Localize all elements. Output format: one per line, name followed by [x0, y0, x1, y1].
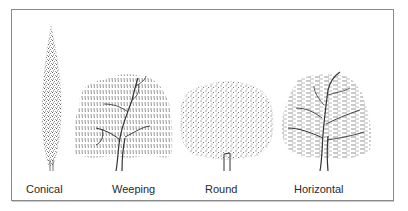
horizontal-tree-drawing	[282, 72, 371, 171]
tree-shapes-illustration	[0, 0, 408, 211]
conical-label: Conical	[26, 183, 63, 195]
weeping-label: Weeping	[112, 183, 155, 195]
conical-tree-drawing	[42, 26, 61, 171]
round-tree-drawing	[181, 82, 273, 172]
horizontal-label: Horizontal	[294, 183, 344, 195]
round-label: Round	[205, 183, 237, 195]
weeping-tree-drawing	[74, 74, 172, 171]
